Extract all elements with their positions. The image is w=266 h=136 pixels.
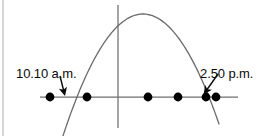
axis-dot (83, 93, 92, 102)
right-time-label: 2.50 p.m. (200, 66, 253, 81)
axis-dot (46, 93, 55, 102)
left-time-label: 10.10 a.m. (16, 66, 76, 81)
figure-container: 10.10 a.m. 2.50 p.m. (0, 0, 266, 136)
axis-dot (202, 93, 211, 102)
axis-dot (144, 93, 153, 102)
axis-dot (174, 93, 183, 102)
axis-dot (212, 93, 221, 102)
parabola-diagram: 10.10 a.m. 2.50 p.m. (0, 0, 266, 136)
